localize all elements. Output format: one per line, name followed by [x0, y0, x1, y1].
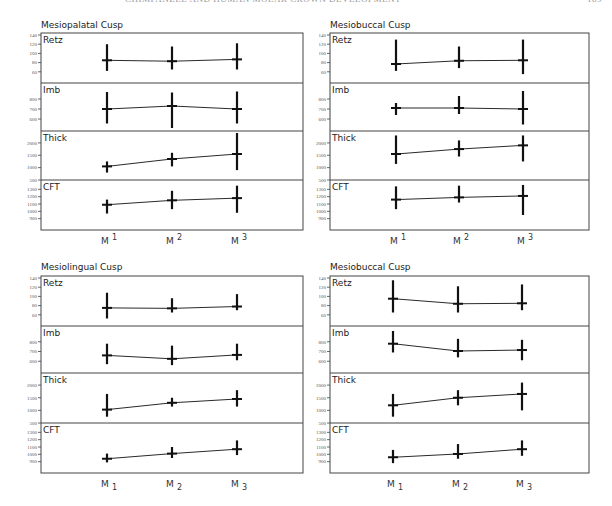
y-tick-label: 1500 [27, 153, 38, 158]
y-tick-label: 80 [32, 60, 38, 65]
y-tick-label: 700 [319, 107, 327, 112]
row-thick: 500100015002000Thick [316, 373, 589, 426]
panel-mesiobuccal-cusp: Mesiobuccal Cusp6080100120140Retz6007008… [316, 262, 589, 492]
y-tick-label: 2000 [316, 383, 327, 388]
tooth-index: 1 [112, 483, 117, 492]
row-label: Retz [43, 278, 63, 288]
x-tick-label-m2: M [452, 479, 460, 489]
panel-mesiolingual-cusp: Mesiolingual Cusp6080100120140Retz600700… [27, 262, 303, 492]
row-retz: 6080100120140Retz [319, 33, 529, 75]
y-tick-label: 1200 [27, 194, 38, 199]
row-imb: 600700800Imb [319, 83, 590, 125]
y-tick-label: 1300 [27, 187, 38, 192]
y-tick-label: 2000 [316, 141, 327, 146]
y-tick-label: 500 [319, 421, 327, 426]
x-tick-label-m3: M [516, 479, 524, 489]
y-tick-label: 2000 [27, 383, 38, 388]
y-tick-label: 1100 [27, 445, 37, 450]
row-thick: 500100015002000Thick [27, 131, 303, 183]
y-tick-label: 1000 [27, 452, 38, 457]
x-tick-label-m1: M [387, 479, 395, 489]
x-tick-label-m2: M [166, 479, 174, 489]
y-tick-label: 140 [30, 33, 38, 38]
y-tick-label: 1000 [27, 209, 38, 214]
y-tick-label: 800 [319, 97, 327, 102]
panel-mesiopalatal-cusp: Mesiopalatal Cusp6080100120140Retz600700… [27, 20, 303, 246]
y-tick-label: 80 [321, 60, 327, 65]
y-tick-label: 1000 [316, 209, 327, 214]
row-label: Imb [332, 85, 349, 95]
y-tick-label: 600 [30, 117, 38, 122]
tooth-index: 1 [112, 233, 117, 242]
y-tick-label: 600 [319, 359, 327, 364]
cusp-measurement-charts: Mesiopalatal Cusp6080100120140Retz600700… [0, 0, 612, 506]
tooth-index: 2 [463, 483, 468, 492]
row-label: Thick [331, 375, 357, 385]
tooth-index: 2 [177, 483, 182, 492]
y-tick-label: 1500 [316, 153, 327, 158]
y-tick-label: 2000 [27, 141, 38, 146]
row-imb: 600700800Imb [30, 326, 304, 365]
row-label: Thick [331, 133, 357, 143]
y-tick-label: 900 [319, 216, 327, 221]
y-tick-label: 100 [319, 51, 327, 56]
y-tick-label: 1100 [27, 202, 37, 207]
y-tick-label: 600 [30, 359, 38, 364]
tooth-index: 3 [242, 483, 247, 492]
y-tick-label: 1100 [316, 202, 326, 207]
tooth-index: 3 [242, 233, 247, 242]
y-tick-label: 120 [319, 42, 327, 47]
y-tick-label: 800 [30, 340, 38, 345]
row-cft: 9001000110012001300CFT [316, 423, 589, 464]
row-label: CFT [332, 182, 349, 192]
y-tick-label: 1200 [27, 437, 38, 442]
row-label: Retz [43, 35, 63, 45]
y-tick-label: 1000 [27, 408, 38, 413]
x-tick-label-m1: M [101, 479, 109, 489]
y-tick-label: 80 [32, 303, 38, 308]
panel-title: Mesiopalatal Cusp [41, 20, 123, 30]
x-tick-label-m3: M [517, 236, 525, 246]
y-tick-label: 1200 [316, 194, 327, 199]
x-tick-label-m1: M [101, 236, 109, 246]
row-label: Imb [43, 328, 60, 338]
y-tick-label: 140 [319, 276, 327, 281]
y-tick-label: 1200 [316, 437, 327, 442]
y-tick-label: 80 [321, 303, 327, 308]
row-imb: 600700800Imb [30, 83, 304, 128]
y-tick-label: 1000 [316, 452, 327, 457]
y-tick-label: 60 [321, 313, 327, 318]
x-tick-label-m2: M [453, 236, 461, 246]
y-tick-label: 900 [30, 459, 38, 464]
y-tick-label: 60 [32, 313, 38, 318]
tooth-index: 2 [177, 233, 182, 242]
y-tick-label: 1500 [316, 396, 327, 401]
y-tick-label: 120 [319, 285, 327, 290]
y-tick-label: 800 [319, 340, 327, 345]
panel-frame [330, 276, 589, 473]
row-thick: 500100015002000Thick [316, 131, 589, 183]
row-retz: 6080100120140Retz [30, 276, 243, 319]
row-cft: 9001000110012001300CFT [27, 180, 303, 221]
y-tick-label: 1000 [27, 165, 38, 170]
y-tick-label: 120 [30, 42, 38, 47]
row-retz: 6080100120140Retz [319, 276, 528, 318]
y-tick-label: 500 [30, 178, 38, 183]
tooth-index: 2 [464, 233, 469, 242]
y-tick-label: 700 [319, 349, 327, 354]
row-label: Thick [42, 375, 68, 385]
panel-title: Mesiobuccal Cusp [330, 20, 411, 30]
x-tick-label-m1: M [390, 236, 398, 246]
panel-title: Mesiobuccal Cusp [330, 262, 411, 272]
tooth-index: 3 [527, 483, 532, 492]
row-label: CFT [43, 425, 60, 435]
y-tick-label: 60 [32, 70, 38, 75]
x-tick-label-m3: M [231, 479, 239, 489]
row-label: CFT [332, 425, 349, 435]
x-tick-label-m3: M [231, 236, 239, 246]
y-tick-label: 800 [30, 97, 38, 102]
y-tick-label: 500 [30, 421, 38, 426]
y-tick-label: 1000 [316, 408, 327, 413]
row-label: Retz [332, 278, 352, 288]
y-tick-label: 1300 [316, 430, 327, 435]
